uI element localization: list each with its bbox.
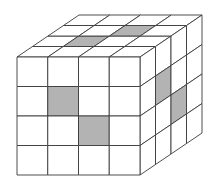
front-cell bbox=[79, 57, 110, 87]
front-cell bbox=[48, 57, 79, 87]
front-cell bbox=[48, 116, 79, 146]
front-cell-shaded bbox=[79, 116, 110, 146]
cube-figure bbox=[0, 0, 213, 190]
cube-front-face bbox=[17, 57, 140, 175]
front-cell bbox=[17, 146, 48, 176]
front-cell bbox=[48, 146, 79, 176]
front-cell bbox=[79, 87, 110, 117]
front-cell bbox=[109, 87, 140, 117]
front-cell bbox=[109, 116, 140, 146]
front-cell bbox=[17, 87, 48, 117]
cube-diagram bbox=[0, 0, 213, 190]
front-cell bbox=[109, 57, 140, 87]
front-cell-shaded bbox=[48, 87, 79, 117]
front-cell bbox=[79, 146, 110, 176]
front-cell bbox=[17, 57, 48, 87]
front-cell bbox=[109, 146, 140, 176]
front-cell bbox=[17, 116, 48, 146]
